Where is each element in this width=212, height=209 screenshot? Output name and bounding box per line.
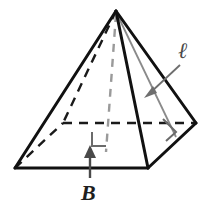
slant-height-label: ℓ — [178, 40, 187, 62]
base-area-label: B — [81, 182, 96, 204]
pyramid-illustration — [0, 0, 212, 209]
pyramid-figure: ℓ B — [0, 0, 212, 209]
